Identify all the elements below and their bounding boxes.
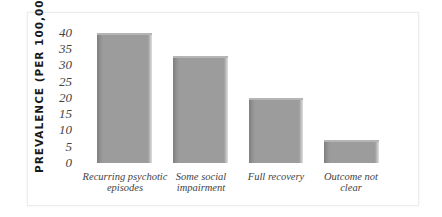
category-line: Outcome not (308, 171, 394, 182)
category-line: clear (308, 182, 394, 193)
y-tick: 15 (48, 108, 72, 120)
x-category-label: Outcome not clear (308, 171, 394, 193)
category-line: impairment (158, 182, 244, 193)
y-axis-label: PREVALENCE (PER 100,000) (33, 23, 45, 173)
y-tick: 5 (48, 141, 72, 153)
category-line: Recurring psychotic (82, 171, 168, 182)
category-line: Full recovery (233, 171, 319, 182)
bar-full-recovery (249, 98, 303, 163)
y-tick: 20 (48, 92, 72, 104)
x-category-label: Some social impairment (158, 171, 244, 193)
y-tick: 25 (48, 76, 72, 88)
x-category-label: Recurring psychotic episodes (82, 171, 168, 193)
bar-outcome-not-clear (324, 140, 379, 163)
bar-some-social-impairment (173, 56, 228, 163)
y-tick: 10 (48, 124, 72, 136)
y-tick: 30 (48, 59, 72, 71)
y-tick: 0 (48, 157, 72, 169)
y-tick: 35 (48, 43, 72, 55)
category-line: Some social (158, 171, 244, 182)
category-line: episodes (82, 182, 168, 193)
bar-recurring-psychotic-episodes (97, 33, 152, 163)
y-tick: 40 (48, 27, 72, 39)
x-category-label: Full recovery (233, 171, 319, 182)
